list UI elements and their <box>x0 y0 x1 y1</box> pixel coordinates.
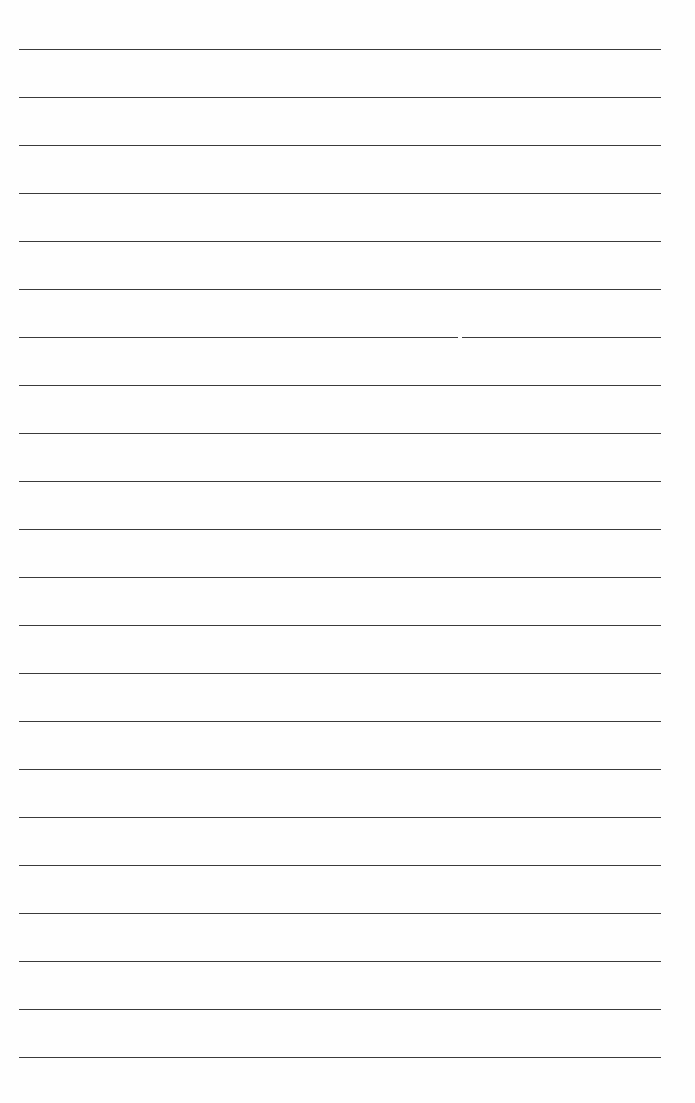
ruled-line <box>19 289 661 291</box>
ruled-line <box>19 769 661 771</box>
ruled-line <box>19 433 661 435</box>
ruled-line <box>19 193 661 195</box>
ruled-line <box>19 241 661 243</box>
ruled-line <box>19 145 661 147</box>
ruled-line <box>19 865 661 867</box>
ruled-line <box>19 625 661 627</box>
ruled-line <box>19 577 661 579</box>
ruled-line <box>19 817 661 819</box>
ruled-line <box>19 97 661 99</box>
ruled-line <box>19 529 661 531</box>
ruled-line <box>19 385 661 387</box>
ruled-line <box>19 481 661 483</box>
lined-paper-page <box>0 0 695 1103</box>
ruled-line <box>19 337 661 339</box>
ruled-line <box>19 961 661 963</box>
ruled-line <box>19 49 661 51</box>
ruled-line <box>19 1057 661 1059</box>
line-break-mark <box>458 336 462 340</box>
ruled-line <box>19 1009 661 1011</box>
ruled-line <box>19 721 661 723</box>
ruled-line <box>19 913 661 915</box>
ruled-line <box>19 673 661 675</box>
